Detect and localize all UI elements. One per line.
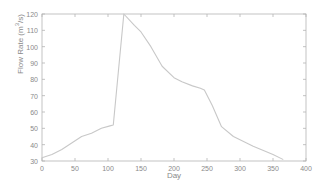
chart-figure: 30405060708090100110120 0501001502002503…	[0, 0, 330, 188]
x-axis-title: Day	[42, 172, 306, 180]
x-tick-label: 400	[300, 165, 312, 172]
y-tick-label: 60	[18, 109, 38, 116]
y-tick-label: 30	[18, 158, 38, 165]
x-tick-label: 250	[201, 165, 213, 172]
y-axis-title-exponent: 3	[14, 23, 20, 26]
axis-frame	[42, 14, 306, 161]
data-series-group	[42, 14, 283, 159]
x-tick-label: 0	[40, 165, 44, 172]
y-tick-label: 40	[18, 141, 38, 148]
x-tick-label: 350	[267, 165, 279, 172]
tick-marks	[42, 14, 306, 161]
x-tick-label: 150	[135, 165, 147, 172]
x-tick-label: 100	[102, 165, 114, 172]
y-axis-title-suffix: /s)	[16, 14, 25, 23]
x-tick-label: 50	[71, 165, 79, 172]
y-tick-label: 50	[18, 125, 38, 132]
y-axis-title-prefix: Flow Rate (m	[16, 26, 25, 74]
y-axis-title: Flow Rate (m3/s)	[17, 0, 25, 99]
plot-canvas	[0, 0, 330, 188]
x-tick-label: 300	[234, 165, 246, 172]
